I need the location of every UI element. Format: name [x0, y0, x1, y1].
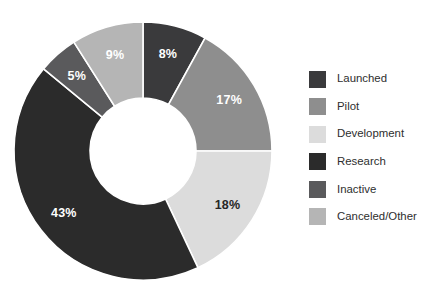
legend-item-label: Research	[337, 156, 386, 167]
legend-item-development[interactable]: Development	[309, 125, 428, 143]
donut-slice-label-pilot: 17%	[216, 93, 242, 107]
donut-slice-label-inactive: 5%	[68, 69, 86, 83]
legend-swatch-icon-pilot	[309, 98, 326, 115]
donut-slice-label-canceled-other: 9%	[106, 48, 124, 62]
donut-chart-svg: 8%17%18%43%5%9%	[0, 0, 290, 292]
legend-swatch-icon-development	[309, 126, 326, 143]
legend-swatch-icon-launched	[309, 71, 326, 88]
donut-chart-figure: 8%17%18%43%5%9% LaunchedPilotDevelopment…	[0, 0, 428, 292]
legend-item-label: Development	[337, 128, 404, 139]
legend-swatch-icon-canceled-other	[309, 208, 326, 225]
chart-legend: LaunchedPilotDevelopmentResearchInactive…	[309, 70, 428, 226]
donut-slice-label-research: 43%	[51, 206, 77, 220]
legend-item-pilot[interactable]: Pilot	[309, 98, 428, 116]
donut-slice-label-launched: 8%	[159, 47, 177, 61]
legend-swatch-icon-inactive	[309, 181, 326, 198]
donut-slices-group	[14, 22, 272, 280]
legend-item-label: Canceled/Other	[337, 211, 417, 222]
legend-item-canceled-other[interactable]: Canceled/Other	[309, 208, 428, 226]
donut-slice-label-development: 18%	[215, 198, 241, 212]
donut-chart-plot-area: 8%17%18%43%5%9%	[0, 0, 290, 292]
legend-item-research[interactable]: Research	[309, 153, 428, 171]
legend-item-label: Launched	[337, 73, 387, 84]
legend-item-label: Pilot	[337, 101, 359, 112]
legend-swatch-icon-research	[309, 153, 326, 170]
legend-item-inactive[interactable]: Inactive	[309, 180, 428, 198]
legend-item-label: Inactive	[337, 184, 376, 195]
legend-item-launched[interactable]: Launched	[309, 70, 428, 88]
